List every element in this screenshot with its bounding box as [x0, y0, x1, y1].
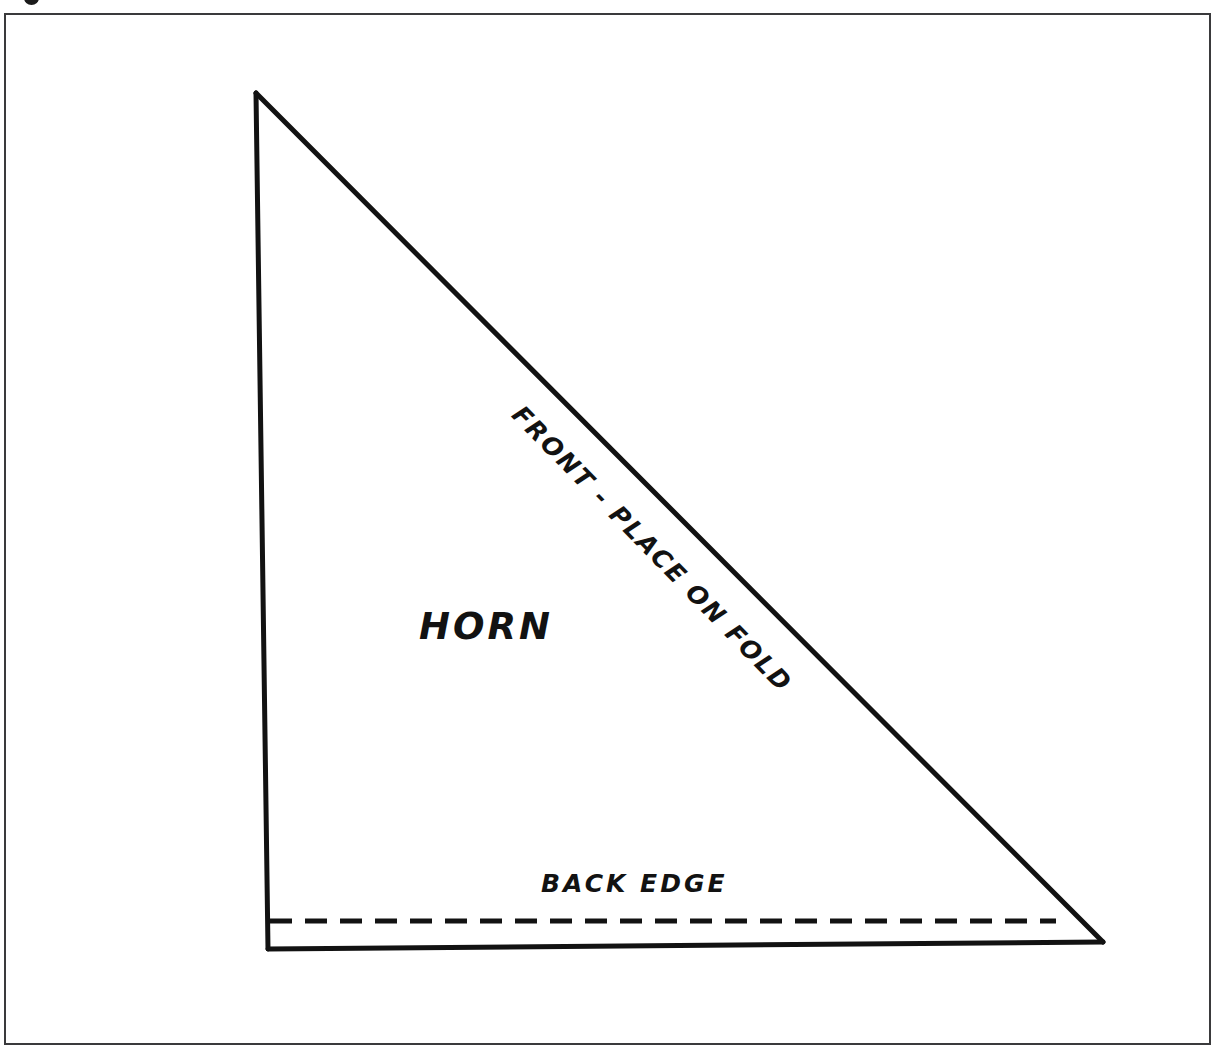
piece-name-label: HORN — [419, 605, 553, 648]
horn-triangle — [256, 93, 1103, 949]
pattern-drawing — [0, 0, 1216, 1062]
page-canvas: HORN FRONT - PLACE ON FOLD BACK EDGE — [0, 0, 1216, 1062]
triangle-hypotenuse-fold-edge — [256, 93, 1103, 942]
triangle-left-edge — [256, 93, 268, 949]
back-edge-label: BACK EDGE — [541, 869, 728, 898]
triangle-bottom-edge — [268, 942, 1103, 949]
